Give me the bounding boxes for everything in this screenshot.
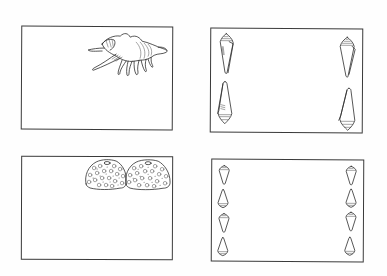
cone-shell-icon — [344, 236, 356, 256]
stationery-sheet — [0, 0, 387, 276]
cone-shell-icon — [338, 36, 356, 78]
sea-urchin-icon — [84, 158, 128, 190]
cone-shell-icon — [337, 87, 357, 131]
cone-shell-icon — [217, 189, 229, 209]
card-urchin — [21, 156, 173, 261]
card-murex — [21, 26, 174, 131]
card-cone-large — [210, 28, 364, 134]
cone-shell-icon — [218, 165, 230, 185]
murex-shell-icon — [88, 30, 170, 80]
cone-shell-icon — [345, 165, 357, 185]
cone-shell-icon — [218, 213, 230, 233]
cone-shell-icon — [216, 81, 234, 125]
card-cone-small — [211, 159, 365, 263]
sea-urchin-icon — [124, 158, 172, 190]
cone-shell-icon — [217, 237, 229, 257]
cone-shell-icon — [345, 211, 357, 231]
cone-shell-icon — [345, 188, 357, 208]
cone-shell-icon — [217, 33, 235, 75]
